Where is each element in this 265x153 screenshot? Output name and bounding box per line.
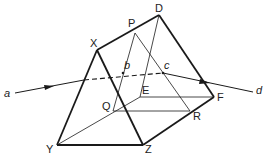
label-D: D — [155, 2, 163, 14]
label-X: X — [90, 37, 98, 49]
label-Q: Q — [102, 100, 111, 112]
label-E: E — [142, 84, 149, 96]
prism-diagram: X P D E F Q R Y Z a b c d — [0, 0, 265, 153]
label-Y: Y — [46, 143, 54, 153]
arrow-emergent-icon — [199, 79, 210, 84]
label-F: F — [217, 91, 224, 103]
label-b: b — [124, 59, 130, 71]
edge-P-Q — [113, 33, 135, 111]
edge-D-F — [159, 15, 214, 97]
outer-edges — [57, 15, 214, 145]
edge-Y-E — [57, 97, 140, 145]
label-P: P — [128, 17, 135, 29]
label-R: R — [193, 110, 201, 122]
label-a: a — [4, 87, 10, 99]
point-c — [162, 72, 165, 75]
edge-X-Z — [97, 50, 143, 145]
interior-edges — [57, 15, 214, 145]
edge-F-Z — [143, 97, 214, 145]
label-c: c — [164, 59, 170, 71]
light-ray — [15, 73, 253, 93]
edge-Y-X — [57, 50, 97, 145]
point-b — [122, 72, 125, 75]
label-Z: Z — [145, 143, 152, 153]
label-d: d — [256, 84, 263, 96]
